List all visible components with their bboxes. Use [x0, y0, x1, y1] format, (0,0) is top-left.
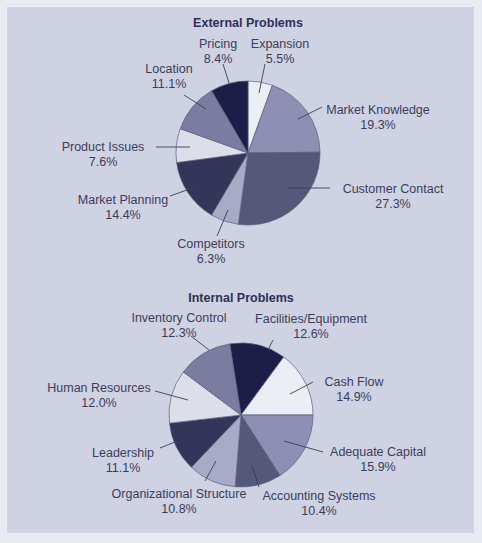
slice-value-label: 10.4% — [301, 504, 336, 518]
slice-value-label: 10.8% — [161, 502, 196, 516]
slice-value-label: 12.3% — [161, 326, 196, 340]
internal-problems-chart: Internal Problems Facilities/Equipment12… — [47, 291, 426, 518]
slice-value-label: 11.1% — [106, 461, 141, 475]
slice-label: Competitors — [177, 237, 244, 251]
slice-label: Accounting Systems — [262, 489, 375, 503]
slices — [176, 81, 320, 225]
leader-line — [160, 442, 175, 448]
slice-value-label: 14.9% — [336, 390, 371, 404]
slice-label: Product Issues — [62, 140, 145, 154]
leader-line — [268, 340, 273, 350]
external-problems-chart: External Problems Expansion5.5%Market Kn… — [62, 16, 444, 266]
leader-line — [223, 64, 229, 83]
slice-value-label: 11.1% — [152, 77, 187, 91]
slice-label: Location — [145, 62, 192, 76]
slice-label: Leadership — [92, 446, 154, 460]
slice-label: Adequate Capital — [330, 445, 426, 459]
slice-label: Facilities/Equipment — [255, 312, 367, 326]
slice-label: Human Resources — [47, 381, 151, 395]
slice-value-label: 14.4% — [105, 208, 140, 222]
slice-label: Market Knowledge — [326, 103, 430, 117]
chart-title: Internal Problems — [188, 291, 294, 305]
slice-value-label: 27.3% — [375, 197, 410, 211]
slice-label: Pricing — [199, 37, 237, 51]
slices — [169, 343, 313, 487]
slice-label: Market Planning — [78, 193, 168, 207]
pie-charts: External Problems Expansion5.5%Market Kn… — [0, 0, 482, 543]
slice-value-label: 12.0% — [81, 396, 116, 410]
slice-value-label: 15.9% — [360, 460, 395, 474]
slice-value-label: 8.4% — [204, 52, 233, 66]
slice-label: Expansion — [251, 37, 309, 51]
slice-value-label: 6.3% — [197, 252, 226, 266]
slice-value-label: 12.6% — [293, 327, 328, 341]
slice-label: Cash Flow — [324, 375, 384, 389]
pie-slice-customer-contact — [238, 152, 320, 225]
slice-label: Customer Contact — [343, 182, 444, 196]
slice-label: Inventory Control — [131, 311, 226, 325]
slice-label: Organizational Structure — [112, 487, 247, 501]
slice-value-label: 19.3% — [360, 118, 395, 132]
slice-value-label: 5.5% — [266, 52, 295, 66]
slice-value-label: 7.6% — [89, 155, 118, 169]
chart-title: External Problems — [193, 16, 303, 30]
